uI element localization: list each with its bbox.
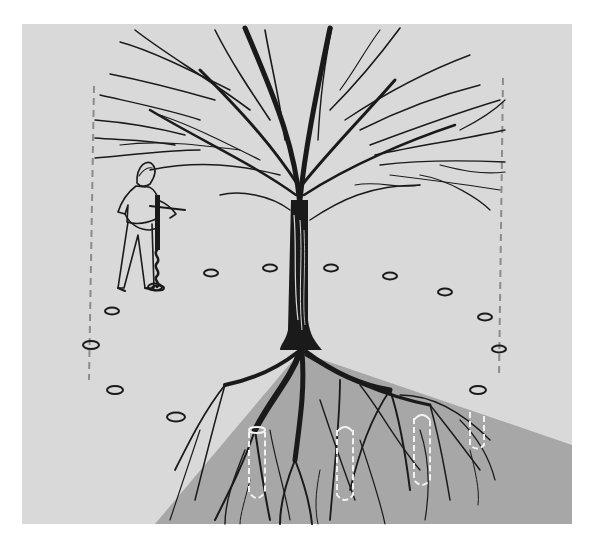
tree-fertilizing-illustration: [0, 0, 590, 545]
auger-shaft: [155, 195, 160, 250]
